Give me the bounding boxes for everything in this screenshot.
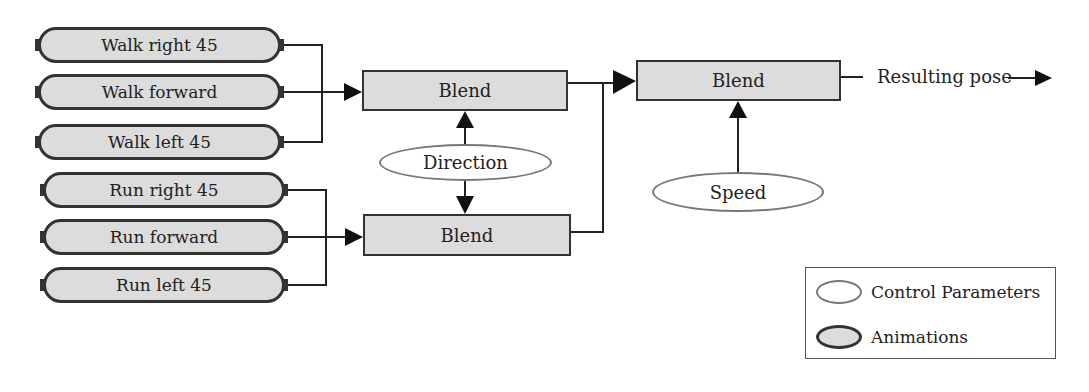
animation-label: Walk right 45 — [101, 35, 218, 55]
animation-label: Run forward — [110, 227, 218, 247]
animation-swatch-icon — [816, 325, 862, 349]
legend-label: Control Parameters — [871, 282, 1040, 302]
animation-run-right-45: Run right 45 — [43, 172, 285, 208]
animation-walk-right-45: Walk right 45 — [38, 27, 281, 63]
legend: Control Parameters Animations — [805, 267, 1056, 359]
walk-blend-node: Blend — [362, 70, 568, 111]
legend-item-control-parameters: Control Parameters — [816, 280, 1040, 304]
animation-label: Run right 45 — [109, 180, 218, 200]
animation-run-forward: Run forward — [43, 219, 285, 255]
parameter-label: Direction — [423, 152, 508, 173]
direction-parameter: Direction — [379, 144, 552, 181]
legend-label: Animations — [871, 327, 968, 347]
animation-label: Run left 45 — [116, 275, 212, 295]
blend-label: Blend — [441, 225, 494, 246]
final-blend-node: Blend — [636, 60, 841, 101]
animation-walk-forward: Walk forward — [38, 74, 281, 110]
parameter-label: Speed — [710, 182, 767, 203]
control-parameter-swatch-icon — [816, 280, 862, 304]
legend-item-animations: Animations — [816, 325, 968, 349]
blend-label: Blend — [439, 80, 492, 101]
blend-label: Blend — [712, 70, 765, 91]
animation-walk-left-45: Walk left 45 — [38, 124, 281, 160]
animation-label: Walk forward — [102, 82, 218, 102]
animation-run-left-45: Run left 45 — [43, 267, 285, 303]
speed-parameter: Speed — [652, 172, 824, 212]
animation-label: Walk left 45 — [108, 132, 211, 152]
run-blend-node: Blend — [363, 214, 571, 256]
resulting-pose-label: Resulting pose — [877, 66, 1012, 87]
